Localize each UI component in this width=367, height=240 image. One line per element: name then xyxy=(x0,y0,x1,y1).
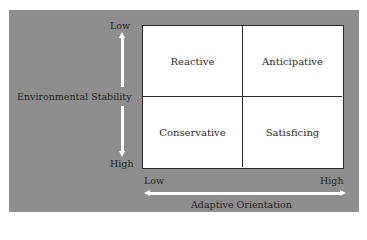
x-axis-right-label: High xyxy=(320,175,344,186)
y-axis-arrow-lower xyxy=(121,106,124,152)
quadrant-conservative: Conservative xyxy=(143,97,243,167)
x-axis-title: Adaptive Orientation xyxy=(191,199,292,210)
matrix-grid: Reactive Anticipative Conservative Satis… xyxy=(142,25,344,169)
x-axis-arrow xyxy=(149,192,341,195)
y-axis-top-label: Low xyxy=(110,20,130,31)
y-axis-title: Environmental Stability xyxy=(17,91,132,102)
quadrant-label: Satisficing xyxy=(266,127,319,138)
x-axis-left-label: Low xyxy=(144,175,164,186)
arrow-down-icon xyxy=(119,151,125,157)
arrow-right-icon xyxy=(340,190,346,196)
y-axis-arrow-upper xyxy=(121,37,124,87)
quadrant-reactive: Reactive xyxy=(143,26,243,97)
quadrant-label: Conservative xyxy=(159,127,225,138)
quadrant-anticipative: Anticipative xyxy=(243,26,342,97)
quadrant-label: Reactive xyxy=(171,56,215,67)
quadrant-satisficing: Satisficing xyxy=(243,97,342,167)
y-axis-bottom-label: High xyxy=(110,158,134,169)
quadrant-label: Anticipative xyxy=(262,56,323,67)
